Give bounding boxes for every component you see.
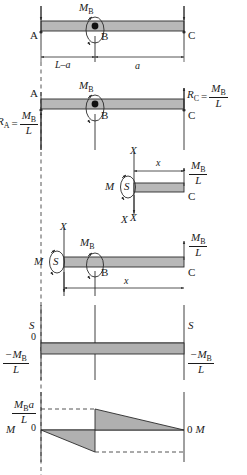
moment-diagram-graphics: [41, 392, 184, 462]
panel4-graphics: [50, 228, 185, 296]
panel4-moment-label: MB: [80, 237, 94, 251]
panel1-node-B-label: B: [101, 31, 108, 42]
panel2-node-A-label: A: [30, 88, 38, 99]
panel1-node-A-label: A: [30, 30, 38, 41]
panel2-moment-label: MB: [79, 80, 93, 94]
panel3-node-C-label: C: [188, 191, 195, 202]
panel3-internal-moment-label: M: [105, 181, 114, 192]
panel4-internal-moment-label: M: [34, 256, 43, 267]
shear-diagram-graphics: [41, 305, 184, 380]
shear-value-left: −MB L: [3, 349, 29, 375]
panel4-force-label: MB L: [189, 232, 207, 258]
shear-axis-label-right: S: [188, 320, 194, 331]
panel4-node-C-label: C: [188, 267, 195, 278]
panel4-dim-x-label: x: [124, 276, 128, 286]
panel1-moment-label: MB: [79, 2, 93, 16]
moment-peak-label: MBa L: [12, 399, 36, 425]
panel2-node-B-label: B: [101, 110, 108, 121]
panel4-node-B-label: B: [101, 267, 108, 278]
panel1-graphics: [39, 6, 185, 62]
panel1-dim-right-label: a: [135, 61, 140, 71]
panel2-graphics: [39, 88, 185, 150]
shear-value-right: −MB L: [188, 349, 214, 375]
panel3-dim-x-label: x: [156, 158, 160, 168]
panel3-force-label: MB L: [189, 160, 207, 186]
panel2-node-C-label: C: [188, 110, 195, 121]
shear-axis-label-left: S: [29, 320, 35, 331]
figure-canvas: MB A B C L–a a MB A B C RA = MB L RC = M…: [0, 0, 247, 475]
panel3-graphics: [121, 152, 185, 215]
panel1-dim-left-label: L–a: [55, 60, 71, 70]
panel1-node-C-label: C: [188, 30, 195, 41]
panel3-cut-label-top: X: [130, 145, 137, 156]
reaction-A-label: RA = MB L: [0, 110, 38, 136]
beam-diagram-graphics: [0, 0, 247, 475]
panel4-cut-label-bottom: X: [121, 214, 128, 225]
moment-axis-label-right: 0 M: [187, 424, 205, 435]
panel4-internal-shear-label: S: [53, 256, 59, 267]
panel3-internal-shear-label: S: [124, 181, 130, 192]
reaction-C-label: RC = MB L: [187, 83, 228, 109]
panel3-cut-label-bottom: X: [130, 212, 137, 223]
moment-axis-label-left: M: [6, 424, 15, 435]
panel4-cut-label-top: X: [60, 221, 67, 232]
shear-zero-label: 0: [31, 332, 36, 342]
